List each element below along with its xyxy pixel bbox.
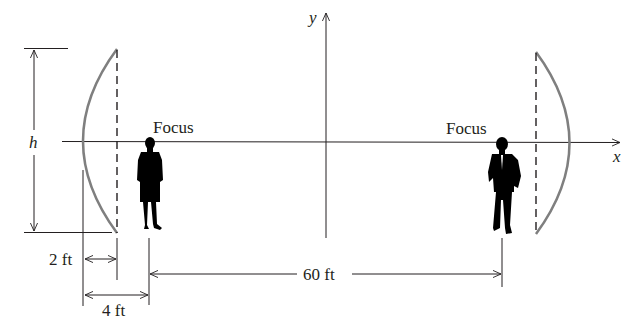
- y-axis-label: y: [307, 8, 317, 27]
- man-silhouette-icon: [488, 137, 521, 234]
- focal-length-dimension: 4 ft: [85, 295, 148, 320]
- left-reflector: [83, 49, 117, 233]
- diagram-canvas: x y h Focus Focus: [0, 0, 637, 332]
- woman-silhouette-icon: [137, 137, 163, 230]
- depth-label: 2 ft: [49, 250, 72, 269]
- focus-label-right: Focus: [446, 119, 487, 138]
- separation-dimension: 60 ft: [150, 265, 501, 284]
- focus-label-left: Focus: [153, 118, 194, 137]
- y-axis: y: [307, 8, 326, 238]
- x-axis-label: x: [612, 147, 621, 166]
- separation-label: 60 ft: [303, 265, 335, 284]
- right-reflector: [536, 52, 570, 234]
- focal-length-label: 4 ft: [102, 301, 125, 320]
- height-label: h: [29, 133, 38, 152]
